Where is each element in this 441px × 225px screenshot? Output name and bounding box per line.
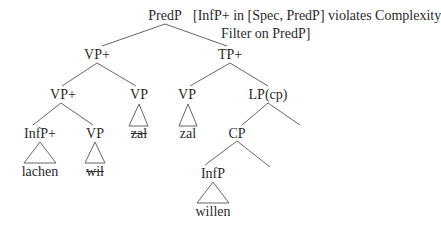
node-infp: InfP xyxy=(201,166,225,182)
node-vp-struck: VP xyxy=(130,87,148,103)
node-predp: PredP xyxy=(148,8,181,24)
leaf-zal-struck: zal xyxy=(131,126,147,142)
node-vp-plus-inner: VP+ xyxy=(50,87,76,103)
leaf-zal: zal xyxy=(180,126,196,142)
node-tp-plus: TP+ xyxy=(218,47,242,63)
leaf-wil-struck: wil xyxy=(86,164,104,180)
leaf-willen: willen xyxy=(196,204,231,220)
annotation-line-2: Filter on PredP] xyxy=(221,26,310,42)
node-infp-plus: InfP+ xyxy=(24,126,56,142)
node-vp-zal: VP xyxy=(178,87,196,103)
node-cp: CP xyxy=(228,126,245,142)
node-lp-cp: LP(cp) xyxy=(249,87,288,103)
node-vp-wil: VP xyxy=(86,126,104,142)
node-vp-plus-top: VP+ xyxy=(84,47,110,63)
annotation-line-1: [InfP+ in [Spec, PredP] violates Complex… xyxy=(193,8,441,24)
leaf-lachen: lachen xyxy=(22,164,59,180)
